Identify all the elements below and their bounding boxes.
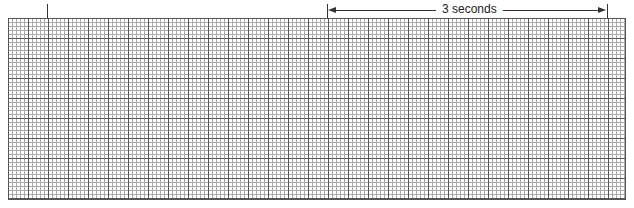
ecg-grid-paper (8, 18, 626, 200)
interval-end-marker (607, 4, 608, 18)
interval-label: 3 seconds (436, 2, 503, 16)
interval-arrow-head-right-icon (598, 7, 606, 13)
start-marker (47, 4, 48, 18)
